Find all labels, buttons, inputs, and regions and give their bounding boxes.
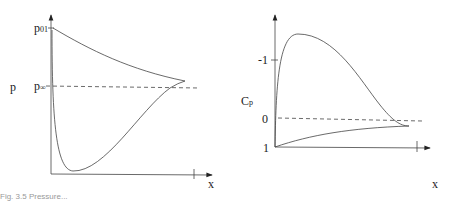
upper-curve [53,28,185,81]
figure-caption: Fig. 3.5 Pressure... [0,192,68,201]
right-x-label: x [432,178,438,190]
lower-cp-curve [275,126,409,147]
diagram-canvas [0,0,452,202]
right-y-label: Cp [241,95,253,109]
tick-zero: 0 [262,113,268,125]
left-x-axis [51,174,212,175]
tick-minus-one: -1 [258,54,268,66]
left-x-label: x [208,178,214,190]
tick-one: 1 [263,142,269,154]
cp-zero-dashed-line [278,118,422,121]
upper-cp-curve [275,34,409,147]
right-plot [271,15,430,152]
left-y-label: p [10,81,16,93]
p01-label: p01 [34,22,48,36]
right-x-axis [275,147,430,148]
left-plot [46,15,212,179]
p-inf-label: p∞ [34,80,46,94]
p-inf-dashed-line [46,86,200,88]
lower-curve [52,30,185,171]
